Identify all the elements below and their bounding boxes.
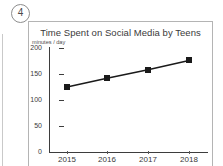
plot-area: 200 150 100 50 0 2015 2016 2017 2018 [29,22,214,166]
data-point-marker [145,67,151,73]
data-point-marker [104,75,110,81]
chart-panel: Time Spent on Social Media by Teens minu… [28,21,213,166]
series-line [29,22,214,166]
page-edge-rule [2,34,3,166]
data-point-marker [186,57,192,63]
data-point-marker [64,84,70,90]
